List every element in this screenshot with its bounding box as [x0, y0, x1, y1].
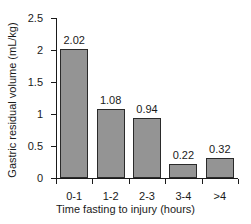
bar-0-1	[60, 49, 88, 178]
x-tick-label->4: >4	[214, 190, 227, 202]
bar-2-3	[133, 118, 161, 178]
y-tick-label-1: 0.5	[3, 140, 43, 152]
x-tick-0	[56, 179, 57, 184]
x-axis-title: Time fasting to injury (hours)	[0, 203, 251, 215]
bar-value-label-3-4: 0.22	[173, 149, 194, 161]
bar-value-label-2-3: 0.94	[136, 103, 157, 115]
bar-3-4	[169, 164, 197, 178]
y-tick-label-5: 2.5	[3, 12, 43, 24]
y-tick-4: 2	[51, 50, 56, 51]
plot-area: 00.511.522.5 2.021.080.940.220.32 0-11-2…	[56, 18, 238, 178]
y-tick-2: 1	[51, 114, 56, 115]
x-tick-label-3-4: 3-4	[175, 190, 191, 202]
bar-1-2	[97, 109, 125, 178]
bar-value-label->4: 0.32	[209, 143, 230, 155]
bar-value-label-1-2: 1.08	[100, 94, 121, 106]
x-tick-4	[202, 179, 203, 184]
y-axis-title: Gastric residual volume (mL/kg)	[3, 0, 21, 200]
x-tick-label-0-1: 0-1	[66, 190, 82, 202]
bar-value-label-0-1: 2.02	[63, 34, 84, 46]
y-tick-label-3: 1.5	[3, 76, 43, 88]
x-tick-5	[238, 179, 239, 184]
y-tick-label-4: 2	[3, 44, 43, 56]
x-axis-line	[56, 178, 238, 179]
x-tick-label-1-2: 1-2	[103, 190, 119, 202]
y-axis-line	[56, 18, 57, 179]
x-tick-1	[92, 179, 93, 184]
x-tick-3	[165, 179, 166, 184]
bar-chart-figure: Gastric residual volume (mL/kg) 00.511.5…	[0, 0, 251, 224]
y-tick-5: 2.5	[51, 18, 56, 19]
bar->4	[206, 158, 234, 178]
y-tick-3: 1.5	[51, 82, 56, 83]
y-tick-label-2: 1	[3, 108, 43, 120]
x-tick-2	[129, 179, 130, 184]
y-tick-1: 0.5	[51, 146, 56, 147]
x-tick-label-2-3: 2-3	[139, 190, 155, 202]
y-tick-label-0: 0	[3, 172, 43, 184]
